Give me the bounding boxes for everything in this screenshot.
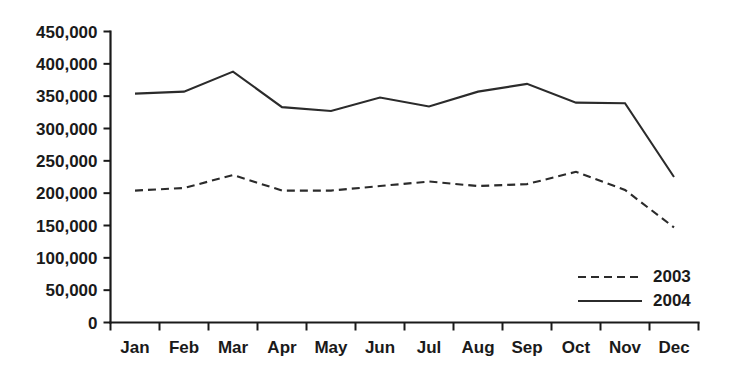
legend-label-2003: 2003 — [653, 267, 691, 286]
x-tick-label-jan: Jan — [120, 338, 149, 357]
y-tick-label: 300,000 — [36, 120, 97, 139]
chart-canvas: 050,000100,000150,000200,000250,000300,0… — [0, 0, 735, 382]
x-tick-label-aug: Aug — [461, 338, 494, 357]
y-tick-label: 450,000 — [36, 23, 97, 42]
x-tick-label-jun: Jun — [365, 338, 395, 357]
x-tick-label-apr: Apr — [267, 338, 297, 357]
y-tick-label: 0 — [88, 314, 97, 333]
series-lines — [135, 72, 674, 228]
chart-legend: 20032004 — [578, 267, 691, 310]
legend-label-2004: 2004 — [653, 291, 691, 310]
x-tick-label-jul: Jul — [417, 338, 442, 357]
y-tick-label: 400,000 — [36, 55, 97, 74]
y-tick-label: 350,000 — [36, 87, 97, 106]
y-tick-label: 50,000 — [46, 281, 98, 300]
x-tick-label-feb: Feb — [169, 338, 199, 357]
y-tick-label: 250,000 — [36, 152, 97, 171]
x-tick-label-dec: Dec — [658, 338, 689, 357]
y-tick-label: 100,000 — [36, 249, 97, 268]
x-tick-label-mar: Mar — [218, 338, 249, 357]
x-axis: JanFebMarAprMayJunJulAugSepOctNovDec — [111, 323, 699, 357]
x-tick-label-sep: Sep — [511, 338, 542, 357]
series-line-2003 — [135, 172, 674, 228]
x-tick-label-may: May — [314, 338, 348, 357]
y-tick-label: 150,000 — [36, 217, 97, 236]
x-tick-label-nov: Nov — [609, 338, 642, 357]
y-axis: 050,000100,000150,000200,000250,000300,0… — [36, 23, 110, 333]
line-chart: 050,000100,000150,000200,000250,000300,0… — [0, 0, 735, 382]
y-tick-label: 200,000 — [36, 184, 97, 203]
series-line-2004 — [135, 72, 674, 177]
x-tick-label-oct: Oct — [562, 338, 591, 357]
